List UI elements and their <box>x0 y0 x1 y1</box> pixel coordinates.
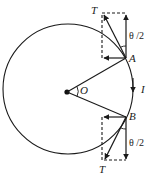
label-a: A <box>128 52 136 64</box>
label-top-angle: θ /2 <box>129 30 144 41</box>
label-top-t: T <box>91 4 98 16</box>
bottom-tension-vector <box>105 117 126 159</box>
label-b: B <box>129 110 136 122</box>
label-o: O <box>80 84 88 96</box>
radius-oa <box>67 58 126 92</box>
top-angle-arc <box>121 46 126 47</box>
label-bottom-angle: θ /2 <box>129 137 144 148</box>
angle-arc-o <box>77 87 78 97</box>
bottom-angle-arc <box>121 128 126 129</box>
radius-ob <box>67 92 126 117</box>
current-loop-diagram: T θ /2 A O I B θ /2 T <box>0 0 158 185</box>
label-i: I <box>140 83 146 95</box>
loop-circle <box>3 24 133 154</box>
label-bottom-t: T <box>99 163 106 175</box>
top-tension-vector <box>104 15 126 58</box>
